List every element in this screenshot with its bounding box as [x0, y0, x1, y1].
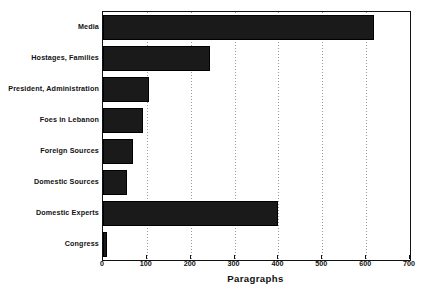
bar [103, 232, 107, 257]
category-label: Media [0, 23, 99, 30]
x-tick-label: 500 [315, 260, 327, 267]
category-label: Foes in Lebanon [0, 116, 99, 123]
x-tick-label: 400 [271, 260, 283, 267]
category-axis: MediaHostages, FamiliesPresident, Admini… [0, 11, 99, 259]
bar [103, 201, 278, 226]
x-tick-label: 300 [228, 260, 240, 267]
gridline-500 [322, 12, 323, 260]
bar [103, 108, 143, 133]
bar [103, 15, 374, 40]
bar [103, 77, 149, 102]
category-label: President, Administration [0, 85, 99, 92]
bar [103, 46, 210, 71]
category-label: Domestic Sources [0, 178, 99, 185]
x-tick-label: 100 [140, 260, 152, 267]
x-tick-label: 200 [184, 260, 196, 267]
plot-inner [103, 12, 410, 260]
x-tick-label: 0 [100, 260, 104, 267]
category-label: Congress [0, 240, 99, 247]
bar [103, 170, 127, 195]
x-axis-title: Paragraphs [102, 274, 409, 284]
x-axis: 0100200300400500600700 [102, 260, 409, 274]
gridline-600 [366, 12, 367, 260]
category-label: Foreign Sources [0, 147, 99, 154]
gridline-400 [278, 12, 279, 260]
plot-area [102, 11, 411, 261]
bar-chart: MediaHostages, FamiliesPresident, Admini… [0, 0, 441, 293]
category-label: Domestic Experts [0, 209, 99, 216]
x-tick-label: 600 [359, 260, 371, 267]
x-tick-label: 700 [403, 260, 415, 267]
category-label: Hostages, Families [0, 54, 99, 61]
bar [103, 139, 133, 164]
